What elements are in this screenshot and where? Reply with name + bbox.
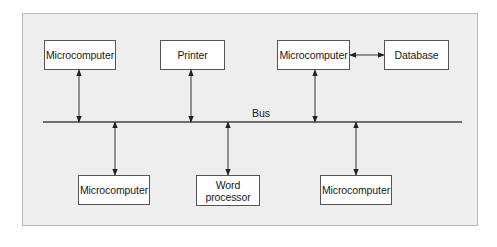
node-label: Printer (177, 49, 207, 61)
node-top-microcomputer-2: Microcomputer (277, 40, 350, 70)
node-word-processor: Word processor (196, 175, 260, 206)
node-bottom-microcomputer-2: Microcomputer (320, 175, 392, 205)
node-label: Database (394, 49, 438, 61)
node-top-microcomputer-1: Microcomputer (44, 40, 116, 70)
connection-lines (0, 0, 497, 247)
node-printer: Printer (160, 40, 225, 70)
node-label: Microcomputer (279, 49, 347, 61)
node-database: Database (384, 40, 449, 70)
node-bottom-microcomputer-1: Microcomputer (78, 175, 150, 205)
node-label: Microcomputer (322, 184, 390, 196)
node-label: Microcomputer (46, 49, 114, 61)
node-label: Word processor (205, 179, 250, 203)
node-label: Microcomputer (80, 184, 148, 196)
bus-label: Bus (252, 107, 270, 119)
